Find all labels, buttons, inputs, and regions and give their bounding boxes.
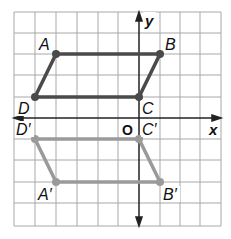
y-axis-up-arrow-icon — [136, 12, 142, 21]
label-c: C — [142, 100, 154, 117]
label-d-prime: D′ — [16, 121, 32, 138]
coordinate-plane: y x O A B C D D′ C′ A′ B′ — [0, 0, 231, 239]
origin-label: O — [122, 122, 133, 138]
y-axis-label: y — [144, 12, 154, 29]
label-c-prime: C′ — [142, 121, 158, 138]
y-axis-down-arrow-icon — [136, 217, 142, 226]
label-a-prime: A′ — [37, 186, 53, 203]
point-a — [52, 50, 60, 58]
point-d — [31, 93, 39, 101]
point-a-prime — [52, 178, 60, 186]
label-b: B — [165, 36, 176, 53]
label-d: D — [18, 100, 30, 117]
label-a: A — [38, 36, 50, 53]
label-b-prime: B′ — [163, 186, 178, 203]
x-axis-label: x — [208, 121, 218, 138]
point-b — [156, 50, 164, 58]
point-b-prime — [156, 178, 164, 186]
